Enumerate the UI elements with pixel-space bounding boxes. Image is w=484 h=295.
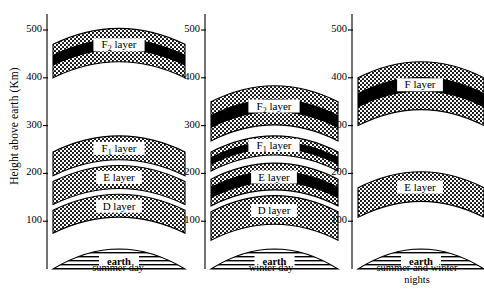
y-tick-label: 400 [172, 71, 200, 82]
panel-3: F layerE layerearth [348, 14, 484, 269]
y-tick-label: 100 [14, 214, 42, 225]
layer-label: E layer [103, 171, 135, 183]
panel-caption-nights: summer and winter nights [352, 262, 482, 286]
layer-label: F layer [405, 78, 436, 90]
y-tick-label: 400 [319, 71, 347, 82]
y-tick-label: 100 [172, 214, 200, 225]
y-tick-label: 100 [319, 214, 347, 225]
y-tick-label: 500 [14, 23, 42, 34]
layer-label: D layer [103, 200, 136, 212]
panel-caption-winter-day: winter day [206, 262, 336, 274]
ionosphere-figure: Height above earth (Km) F2 layerF1 layer… [0, 0, 484, 295]
layer-band [358, 172, 484, 218]
y-tick-label: 400 [14, 71, 42, 82]
panel-2: F2 layerF1 layerE layerD layerearth [201, 14, 338, 269]
y-tick-label: 300 [172, 119, 200, 130]
diagram-canvas: F2 layerF1 layerE layerD layerearthF2 la… [0, 0, 484, 295]
y-tick-label: 200 [319, 166, 347, 177]
y-tick-label: 500 [319, 23, 347, 34]
panel-caption-summer-day: summer day [48, 262, 188, 274]
y-tick-label: 200 [14, 166, 42, 177]
y-tick-label: 500 [172, 23, 200, 34]
y-tick-label: 200 [172, 166, 200, 177]
y-tick-label: 300 [14, 119, 42, 130]
layer-label: D layer [258, 204, 291, 216]
y-tick-label: 300 [319, 119, 347, 130]
panel-1: F2 layerF1 layerE layerD layerearth [43, 14, 185, 269]
layer-label: E layer [404, 181, 436, 193]
layer-label: E layer [258, 171, 290, 183]
